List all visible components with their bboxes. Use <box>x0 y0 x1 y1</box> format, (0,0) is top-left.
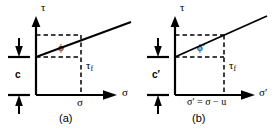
friction-angle-label-a: ϕ <box>58 42 64 53</box>
failure-envelope-line-b <box>175 16 267 57</box>
cohesion-label-a: c <box>15 70 21 80</box>
panel-b-effective-stress: τ σ′ c′ ϕ′ τf σ′ = σ − u (b) <box>139 0 277 134</box>
panel-a-total-stress: τ σ c ϕ τf σ (a) <box>0 0 139 134</box>
panel-b-graphics <box>139 0 277 134</box>
mohr-coulomb-figure: τ σ c ϕ τf σ (a) <box>0 0 277 134</box>
shear-strength-label-b: τf <box>229 60 236 73</box>
tau-axis-label-a: τ <box>41 2 45 13</box>
shear-strength-subscript-b: f <box>233 64 236 73</box>
tau-axis-label-b: τ <box>180 2 184 13</box>
failure-envelope-line-a <box>36 22 131 57</box>
shear-strength-label-a: τf <box>86 60 93 73</box>
effective-stress-equation-b: σ′ = σ − u <box>187 97 226 107</box>
normal-stress-label-a: σ <box>77 97 83 108</box>
sigma-axis-label-a: σ <box>122 87 128 98</box>
sigma-prime-axis-label-b: σ′ <box>259 87 267 98</box>
panel-a-caption: (a) <box>59 112 72 124</box>
panel-b-caption: (b) <box>192 112 205 124</box>
friction-angle-label-b: ϕ′ <box>197 42 205 53</box>
shear-strength-subscript-a: f <box>90 64 93 73</box>
cohesion-label-b: c′ <box>152 70 160 80</box>
